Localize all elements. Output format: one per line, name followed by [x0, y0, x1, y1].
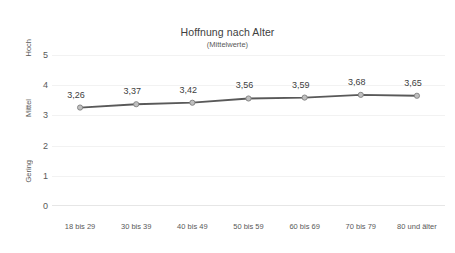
data-point-marker: [134, 102, 139, 107]
x-axis-tick-label: 80 und älter: [397, 222, 437, 231]
x-axis-tick-label: 50 bis 59: [233, 222, 263, 231]
data-point-marker: [302, 95, 307, 100]
chart-container: Hoffnung nach Alter (Mittelwerte) HochMi…: [0, 0, 455, 253]
data-label: 3,68: [348, 77, 366, 87]
y-axis-tick-label: 5: [34, 50, 48, 60]
x-axis-tick-labels: 18 bis 2930 bis 3940 bis 4950 bis 5960 b…: [52, 222, 445, 236]
x-axis-tick-label: 30 bis 39: [121, 222, 151, 231]
x-axis-tick-label: 60 bis 69: [289, 222, 319, 231]
data-label: 3,26: [67, 90, 85, 100]
y-axis-tick-label: 0: [34, 201, 48, 211]
y-axis-tick-label: 4: [34, 80, 48, 90]
data-label: 3,42: [180, 85, 198, 95]
y-axis-category-label: Hoch: [24, 39, 33, 57]
data-label: 3,37: [123, 86, 141, 96]
y-axis-tick-label: 2: [34, 141, 48, 151]
x-axis-tick-label: 40 bis 49: [177, 222, 207, 231]
data-point-marker: [414, 93, 419, 98]
data-point-marker: [77, 105, 82, 110]
data-point-marker: [358, 92, 363, 97]
data-label: 3,65: [404, 78, 422, 88]
chart-subtitle: (Mittelwerte): [0, 40, 455, 49]
y-axis-tick-labels: 012345: [30, 55, 48, 206]
y-axis-tick-label: 1: [34, 171, 48, 181]
x-axis-tick-label: 70 bis 79: [346, 222, 376, 231]
y-axis-tick-label: 3: [34, 110, 48, 120]
data-label: 3,59: [292, 80, 310, 90]
plot-area: 3,263,373,423,563,593,683,65: [52, 55, 445, 206]
line-series: [52, 55, 445, 206]
data-point-marker: [190, 100, 195, 105]
data-label: 3,56: [236, 80, 254, 90]
chart-title: Hoffnung nach Alter: [0, 26, 455, 38]
data-point-marker: [246, 96, 251, 101]
x-axis-tick-label: 18 bis 29: [65, 222, 95, 231]
